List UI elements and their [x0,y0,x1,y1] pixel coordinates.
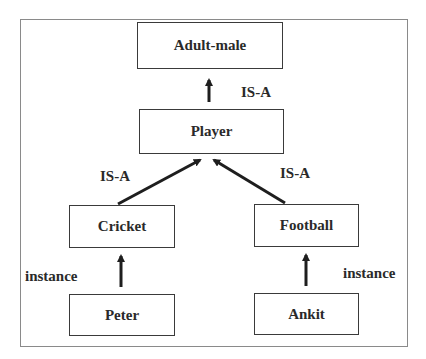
edge-label-player-adult-male: IS-A [241,84,271,101]
edge-label-ankit-football: instance [343,265,396,282]
node-football: Football [254,204,359,247]
edge-football-to-player [214,160,285,203]
node-player: Player [139,109,284,154]
node-cricket: Cricket [69,205,175,248]
node-peter: Peter [69,294,175,336]
edge-label-cricket-player: IS-A [100,168,130,185]
edge-label-football-player: IS-A [280,165,310,182]
edge-label-peter-cricket: instance [25,268,78,285]
node-ankit: Ankit [254,293,359,335]
edge-cricket-to-player [118,160,200,204]
node-adult-male: Adult-male [137,22,283,69]
